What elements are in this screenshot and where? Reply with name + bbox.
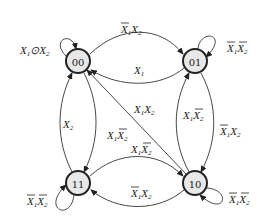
svg-text:X1X2: X1X2 [130, 143, 152, 157]
edge-10-to-00 [87, 70, 186, 174]
label-11-to-00: X2 [62, 118, 74, 132]
svg-text:X1X2: X1X2 [182, 109, 204, 123]
edge-10-to-01 [176, 73, 189, 172]
label-01-self: X1X2 [226, 42, 248, 56]
svg-text:X1X2: X1X2 [130, 187, 152, 201]
svg-text:10: 10 [189, 179, 202, 190]
state-diagram: 00 01 10 11 X1⊙X2 X1X2 X1 X1X2 X1X2 X1X2 [0, 0, 273, 223]
state-10: 10 [183, 171, 207, 195]
label-01-to-00: X1 [133, 64, 144, 78]
edge-00-to-01 [90, 32, 183, 54]
edge-11-to-10 [90, 157, 183, 177]
label-10-to-11: X1X2 [130, 187, 152, 201]
label-10-to-00: X1X2 [133, 103, 155, 117]
svg-text:X1X2: X1X2 [219, 125, 241, 139]
svg-text:X1X2: X1X2 [120, 23, 142, 37]
label-11-to-10: X1X2 [130, 143, 152, 157]
label-00-self: X1⊙X2 [19, 44, 50, 58]
label-10-self: X1X2 [228, 193, 250, 207]
state-01: 01 [183, 49, 207, 73]
svg-text:X1: X1 [133, 64, 144, 78]
svg-text:11: 11 [72, 179, 85, 190]
label-01-to-10: X1X2 [219, 125, 241, 139]
svg-text:00: 00 [72, 57, 85, 68]
svg-text:01: 01 [189, 57, 202, 68]
svg-text:X1X2: X1X2 [228, 193, 250, 207]
edge-00-to-11 [84, 73, 96, 172]
svg-text:X1⊙X2: X1⊙X2 [19, 44, 50, 58]
state-11: 11 [66, 171, 90, 195]
label-10-to-01: X1X2 [182, 109, 204, 123]
svg-text:X1X2: X1X2 [133, 103, 155, 117]
state-00: 00 [66, 49, 90, 73]
label-00-to-11: X1X2 [106, 129, 128, 143]
svg-text:X2: X2 [62, 118, 74, 132]
svg-text:X1X2: X1X2 [26, 195, 48, 209]
label-11-self: X1X2 [26, 195, 48, 209]
svg-text:X1X2: X1X2 [226, 42, 248, 56]
svg-text:X1X2: X1X2 [106, 129, 128, 143]
label-00-to-01: X1X2 [120, 23, 142, 37]
